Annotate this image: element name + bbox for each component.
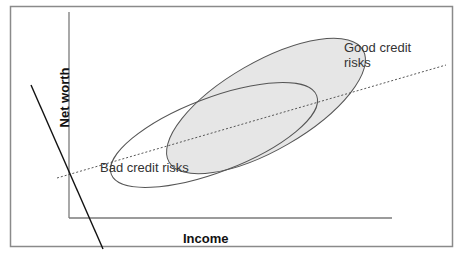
y-axis-label: Net worth <box>57 58 72 138</box>
good-credit-label-line-1: Good credit <box>344 40 424 55</box>
good-credit-label-line-2: risks <box>344 55 424 70</box>
x-axis-label: Income <box>183 231 229 246</box>
bad-credit-label: Bad credit risks <box>100 160 189 175</box>
good-credit-label: Good credit risks <box>344 40 424 70</box>
